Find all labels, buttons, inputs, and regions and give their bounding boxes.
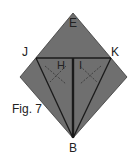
label-h: H <box>57 59 65 71</box>
label-b: B <box>69 141 77 155</box>
label-e: E <box>69 16 77 30</box>
label-k: K <box>111 45 119 59</box>
figure-caption: Fig. 7 <box>12 102 42 116</box>
origami-diagram: E J K B H I Fig. 7 <box>0 0 138 161</box>
label-j: J <box>22 45 28 59</box>
label-i: I <box>79 59 82 71</box>
